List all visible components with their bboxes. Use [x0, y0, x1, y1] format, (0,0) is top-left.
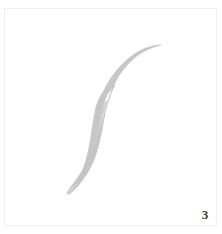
worm-body-path	[67, 45, 161, 194]
specimen-image	[0, 0, 222, 234]
worm-body-group	[67, 45, 161, 194]
figure-plate: 3	[0, 0, 222, 234]
figure-number-label: 3	[198, 207, 212, 223]
